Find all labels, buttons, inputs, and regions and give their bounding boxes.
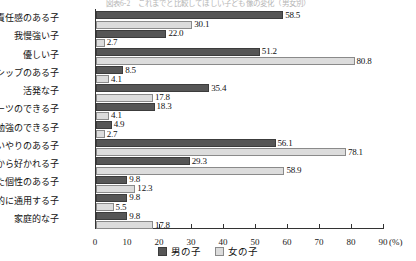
bar-chart-figure: 図表6-2 これまでと比較してほしい子ども像の変化（男女別） 010203040… [0,0,416,261]
category-label: お勉強のできる子 [0,123,59,133]
legend-swatch-boy [158,247,167,256]
bar-boy [96,66,123,74]
bar-value-label: 51.2 [262,47,277,56]
category-label: 活発な子 [0,86,59,96]
category-label: 家庭的な子 [0,214,59,224]
category-label: 一芸秀でた個性のある子 [0,177,59,187]
category-label: 優しい子 [0,50,59,60]
figure-caption: 図表6-2 これまでと比較してほしい子ども像の変化（男女別） [0,0,416,8]
chart-legend: 男の子女の子 [0,244,416,258]
bar-boy [96,139,276,147]
plot-area: 0102030405060708090(%) 責任感のある子58.530.1我慢… [95,9,383,228]
bar-value-label: 58.5 [285,11,300,20]
bar-value-label: 35.4 [211,84,226,93]
category-label: 責任感のある子 [0,13,59,23]
legend-swatch-girl [215,247,224,256]
category-label: 我慢強い子 [0,31,59,41]
bar-value-label: 9.8 [129,212,140,221]
bar-value-label: 8.5 [125,66,136,75]
x-tick-90 [383,224,384,229]
bar-value-label: 17.8 [155,221,170,230]
bar-value-label: 22.0 [168,29,183,38]
legend-label: 女の子 [228,244,258,258]
bar-value-label: 9.8 [129,193,140,202]
bar-boy [96,11,283,19]
legend-item: 女の子 [215,244,258,258]
category-label: リーダーシップのある子 [0,68,59,78]
category-label: 国際的に通用する子 [0,196,59,206]
bar-boy [96,176,127,184]
bar-boy [96,157,190,165]
bar-boy [96,194,127,202]
bar-boy [96,84,209,92]
category-label: 思いやりのある子 [0,141,59,151]
bar-boy [96,48,260,56]
legend-label: 男の子 [171,244,201,258]
category-label: 人から好かれる子 [0,159,59,169]
bar-value-label: 29.3 [192,157,207,166]
legend-item: 男の子 [158,244,201,258]
bar-girl [96,221,153,229]
bar-boy [96,103,155,111]
bar-value-label: 18.3 [157,102,172,111]
bar-boy [96,30,166,38]
bar-boy [96,212,127,220]
category-label: スポーツのできる子 [0,104,59,114]
bar-boy [96,121,112,129]
bar-group: 家庭的な子9.817.8 [95,210,383,232]
bar-value-label: 56.1 [278,139,293,148]
